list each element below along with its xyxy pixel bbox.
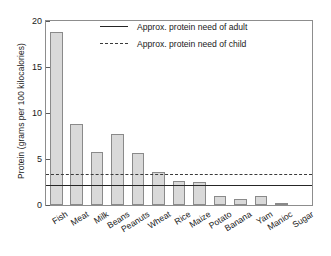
bar-peanuts: [132, 153, 145, 205]
x-axis-tick-labels: FishMeatMilkBeansPeanutsWheatRiceMaizePo…: [45, 206, 313, 256]
bar-meat: [70, 124, 83, 205]
x-axis-tick-label-sugar: Sugar: [290, 209, 315, 230]
bar-fish: [50, 32, 63, 205]
legend-line-solid-icon: [100, 26, 128, 27]
y-axis-tick-label: 10: [12, 108, 42, 118]
y-axis-tick-label: 5: [12, 154, 42, 164]
y-axis-tick-label: 20: [12, 16, 42, 26]
bar-beans: [111, 134, 124, 205]
reference-line-adult: [46, 185, 312, 186]
x-axis-tick-label-fish: Fish: [50, 209, 69, 226]
bar-banana: [234, 199, 247, 205]
legend-line-dashed-icon: [100, 43, 128, 44]
x-axis-tick-label-meat: Meat: [68, 209, 90, 228]
y-axis-tick-mark: [46, 21, 50, 22]
protein-bar-chart-figure: Protein (grams per 100 kilocalories) 051…: [0, 0, 331, 256]
x-axis-tick-label-wheat: Wheat: [145, 209, 171, 231]
y-axis-tick-label: 15: [12, 62, 42, 72]
bar-yam: [255, 196, 268, 205]
y-axis-tick-label: 0: [12, 200, 42, 210]
legend-item-adult: Approx. protein need of adult: [100, 18, 272, 35]
chart-legend: Approx. protein need of adult Approx. pr…: [100, 18, 272, 52]
legend-label-adult: Approx. protein need of adult: [137, 22, 247, 32]
bar-milk: [91, 152, 104, 205]
reference-line-child: [46, 174, 312, 175]
bar-wheat: [152, 172, 165, 205]
bar-potato: [214, 196, 227, 205]
legend-label-child: Approx. protein need of child: [137, 39, 246, 49]
legend-item-child: Approx. protein need of child: [100, 35, 272, 52]
bar-manioc: [275, 203, 288, 205]
